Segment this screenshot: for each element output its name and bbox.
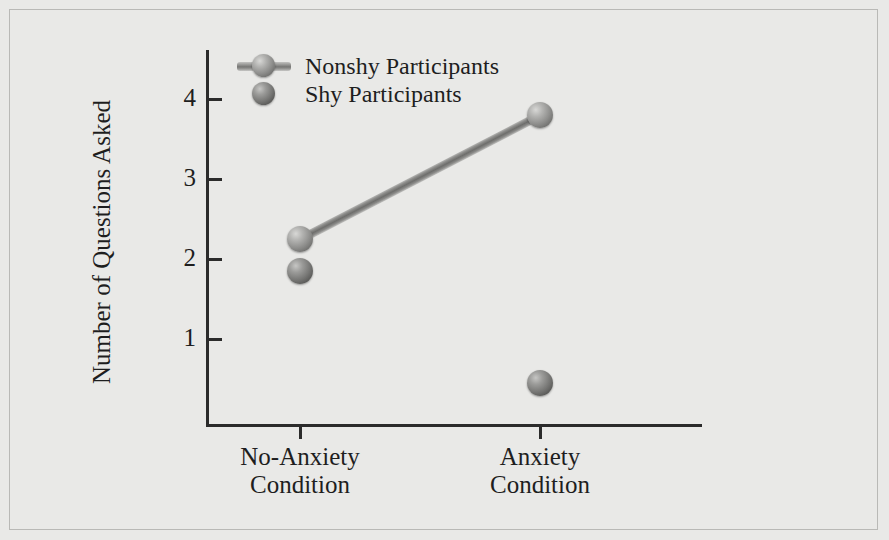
- legend-sphere-icon-shy: [252, 82, 275, 105]
- figure-canvas: 4 3 2 1 Number of Questions Asked No-Anx…: [0, 0, 889, 540]
- x-tick-label-no-anxiety: No-Anxiety Condition: [190, 443, 410, 499]
- x-tick-label-anxiety-line2: Condition: [430, 471, 650, 499]
- data-point-nonshy-anxiety: [527, 102, 553, 128]
- legend-sphere-icon-nonshy: [252, 54, 275, 77]
- x-tick-mark-anxiety: [539, 427, 542, 439]
- y-tick-label-1: 1: [156, 325, 196, 350]
- y-tick-mark-3: [209, 178, 222, 181]
- y-tick-label-2: 2: [156, 245, 196, 270]
- x-axis-line: [206, 424, 702, 427]
- data-point-nonshy-no-anxiety: [287, 226, 313, 252]
- data-point-shy-anxiety: [527, 370, 553, 396]
- x-tick-label-anxiety: Anxiety Condition: [430, 443, 650, 499]
- chart-legend: Nonshy Participants Shy Participants: [237, 52, 499, 108]
- y-tick-mark-4: [209, 98, 222, 101]
- legend-item-nonshy: Nonshy Participants: [237, 52, 499, 80]
- data-point-shy-no-anxiety: [287, 258, 313, 284]
- y-tick-mark-2: [209, 258, 222, 261]
- x-tick-label-no-anxiety-line1: No-Anxiety: [190, 443, 410, 471]
- legend-label-nonshy: Nonshy Participants: [305, 54, 499, 78]
- y-tick-label-4: 4: [156, 85, 196, 110]
- x-tick-mark-no-anxiety: [299, 427, 302, 439]
- y-axis-title: Number of Questions Asked: [88, 77, 116, 407]
- series-line-nonshy: [298, 112, 542, 244]
- plot-area: 4 3 2 1 Number of Questions Asked No-Anx…: [0, 0, 889, 540]
- x-tick-label-anxiety-line1: Anxiety: [430, 443, 650, 471]
- y-axis-line: [206, 50, 209, 427]
- legend-label-shy: Shy Participants: [305, 82, 462, 106]
- y-tick-label-3: 3: [156, 165, 196, 190]
- y-tick-mark-1: [209, 338, 222, 341]
- legend-swatch-shy: [237, 81, 291, 107]
- legend-swatch-nonshy: [237, 53, 291, 79]
- x-tick-label-no-anxiety-line2: Condition: [190, 471, 410, 499]
- legend-item-shy: Shy Participants: [237, 80, 499, 108]
- series-line-shy: [298, 267, 542, 387]
